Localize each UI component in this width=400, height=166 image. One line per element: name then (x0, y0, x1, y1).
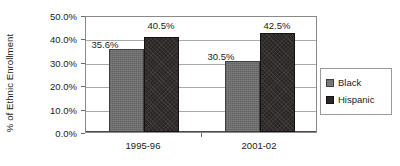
data-label-2001-02-black: 30.5% (199, 51, 243, 62)
legend-swatch-black-icon (326, 79, 334, 87)
y-tick-label-30: 30.0% (31, 57, 77, 68)
bar-1995-96-hispanic (144, 37, 179, 132)
legend-swatch-hispanic-icon (326, 96, 334, 104)
legend-label-hispanic: Hispanic (338, 94, 374, 105)
data-label-1995-96-hispanic: 40.5% (139, 20, 183, 31)
plot-area (85, 16, 317, 133)
legend: Black Hispanic (320, 68, 392, 115)
y-tick-label-20: 20.0% (31, 81, 77, 92)
x-category-label-2001-02: 2001-02 (226, 140, 292, 151)
data-label-1995-96-black: 35.6% (83, 39, 127, 50)
x-axis-center-tick (201, 133, 202, 137)
y-axis-title: % of Ethnic Enrollment (0, 0, 18, 166)
y-tick-label-50: 50.0% (31, 11, 77, 22)
y-tick-label-0: 0.0% (31, 128, 77, 139)
legend-label-black: Black (338, 77, 361, 88)
data-label-2001-02-hispanic: 42.5% (255, 20, 299, 31)
legend-item-black: Black (326, 74, 387, 91)
x-category-label-1995-96: 1995-96 (110, 140, 176, 151)
bar-2001-02-black (225, 61, 260, 132)
bar-1995-96-black (109, 49, 144, 132)
bar-chart: % of Ethnic Enrollment 50.0% 40.0% 30.0%… (0, 0, 400, 166)
y-tick-label-10: 10.0% (31, 104, 77, 115)
bar-2001-02-hispanic (260, 33, 295, 133)
y-tick-label-40: 40.0% (31, 34, 77, 45)
legend-item-hispanic: Hispanic (326, 91, 387, 108)
y-tick-mark-0 (81, 133, 85, 134)
